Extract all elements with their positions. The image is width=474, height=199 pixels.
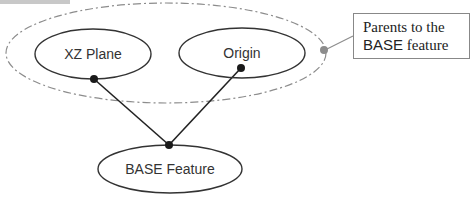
node-base-feature[interactable]: BASE Feature <box>98 145 242 193</box>
node-xz-plane-label: XZ Plane <box>64 46 122 62</box>
node-base-feature-label: BASE Feature <box>125 161 215 177</box>
edge-xz-to-base <box>94 79 169 145</box>
callout-feature-word: feature <box>403 37 448 53</box>
callout-base-word: BASE <box>363 36 403 53</box>
callout-leader-line <box>325 36 353 50</box>
callout-box: Parents to the BASE feature <box>353 13 470 59</box>
edge-origin-to-base <box>169 68 241 145</box>
callout-line-1: Parents to the <box>363 18 469 36</box>
callout-line-2: BASE feature <box>363 36 469 54</box>
callout-anchor-dot <box>320 46 328 54</box>
parents-group-outline <box>6 3 326 103</box>
xz-plane-connector-dot <box>90 75 98 83</box>
origin-connector-dot <box>237 64 245 72</box>
node-xz-plane[interactable]: XZ Plane <box>35 29 151 79</box>
node-origin-label: Origin <box>223 45 260 61</box>
base-feature-connector-dot <box>165 141 173 149</box>
